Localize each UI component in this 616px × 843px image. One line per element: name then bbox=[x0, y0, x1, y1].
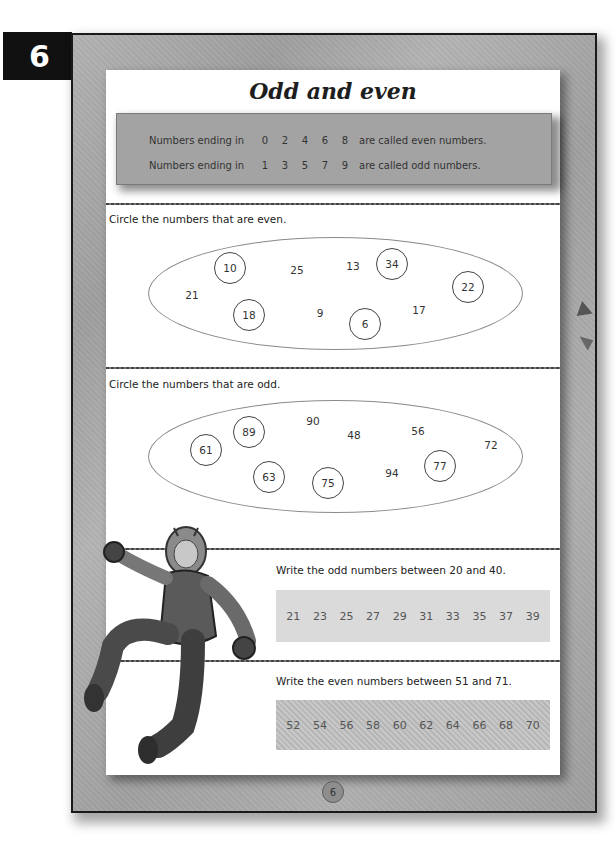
number-item[interactable]: 25 bbox=[290, 264, 303, 276]
answer-number: 39 bbox=[526, 610, 540, 623]
rule-digit: 8 bbox=[335, 135, 355, 146]
answer-number: 56 bbox=[339, 719, 353, 732]
page-number-badge: 6 bbox=[322, 781, 344, 803]
rule-digit: 4 bbox=[295, 135, 315, 146]
rule-digit: 0 bbox=[255, 135, 275, 146]
number-item[interactable]: 72 bbox=[484, 439, 497, 451]
circled-number[interactable]: 77 bbox=[424, 450, 456, 482]
number-item[interactable]: 21 bbox=[185, 289, 198, 301]
circled-number[interactable]: 63 bbox=[253, 461, 285, 493]
rule-tail: are called even numbers. bbox=[359, 135, 486, 146]
unit-number-tab: 6 bbox=[3, 32, 72, 80]
rule-lead: Numbers ending in bbox=[149, 160, 255, 171]
even-write-instruction: Write the even numbers between 51 and 71… bbox=[276, 675, 512, 687]
answer-number: 23 bbox=[313, 610, 327, 623]
unit-number: 6 bbox=[29, 39, 50, 74]
number-item[interactable]: 56 bbox=[411, 425, 424, 437]
circled-number[interactable]: 89 bbox=[233, 416, 265, 448]
rule-digit: 2 bbox=[275, 135, 295, 146]
rule-digit: 1 bbox=[255, 160, 275, 171]
circled-number[interactable]: 6 bbox=[349, 308, 381, 340]
rule-lead: Numbers ending in bbox=[149, 135, 255, 146]
rule-tail: are called odd numbers. bbox=[359, 160, 481, 171]
decorative-wing-icon bbox=[577, 301, 596, 321]
circled-number[interactable]: 75 bbox=[312, 467, 344, 499]
even-answer-box[interactable]: 52545658606264666870 bbox=[276, 700, 550, 750]
answer-number: 70 bbox=[526, 719, 540, 732]
number-item[interactable]: 48 bbox=[347, 429, 360, 441]
answer-number: 29 bbox=[393, 610, 407, 623]
rule-digit: 7 bbox=[315, 160, 335, 171]
superhero-figure-icon bbox=[84, 527, 255, 764]
answer-number: 60 bbox=[393, 719, 407, 732]
section-divider bbox=[106, 203, 560, 205]
decorative-wing-icon bbox=[580, 332, 597, 351]
page-title: Odd and even bbox=[106, 78, 560, 104]
answer-number: 62 bbox=[419, 719, 433, 732]
number-item[interactable]: 17 bbox=[412, 304, 425, 316]
even-rule-row: Numbers ending in 0 2 4 6 8 are called e… bbox=[149, 133, 486, 147]
odd-instruction: Circle the numbers that are odd. bbox=[109, 378, 280, 390]
answer-number: 68 bbox=[499, 719, 513, 732]
odd-rule-row: Numbers ending in 1 3 5 7 9 are called o… bbox=[149, 158, 481, 172]
answer-number: 31 bbox=[419, 610, 433, 623]
number-item[interactable]: 90 bbox=[306, 415, 319, 427]
answer-number: 64 bbox=[446, 719, 460, 732]
rule-info-box: Numbers ending in 0 2 4 6 8 are called e… bbox=[116, 113, 552, 185]
even-instruction: Circle the numbers that are even. bbox=[109, 213, 286, 225]
number-item[interactable]: 9 bbox=[317, 307, 324, 319]
rule-digit: 6 bbox=[315, 135, 335, 146]
circled-number[interactable]: 22 bbox=[452, 271, 484, 303]
answer-number: 33 bbox=[446, 610, 460, 623]
circled-number[interactable]: 10 bbox=[214, 252, 246, 284]
number-item[interactable]: 94 bbox=[385, 467, 398, 479]
odd-write-instruction: Write the odd numbers between 20 and 40. bbox=[276, 564, 506, 576]
answer-number: 58 bbox=[366, 719, 380, 732]
worksheet-card: Odd and even Numbers ending in 0 2 4 6 8… bbox=[106, 70, 560, 775]
rule-digit: 3 bbox=[275, 160, 295, 171]
answer-number: 25 bbox=[339, 610, 353, 623]
answer-number: 21 bbox=[286, 610, 300, 623]
answer-number: 66 bbox=[472, 719, 486, 732]
section-divider bbox=[106, 367, 560, 369]
page-number: 6 bbox=[330, 787, 336, 798]
answer-number: 54 bbox=[313, 719, 327, 732]
superhero-illustration bbox=[78, 526, 268, 766]
answer-number: 35 bbox=[472, 610, 486, 623]
circled-number[interactable]: 34 bbox=[376, 248, 408, 280]
circled-number[interactable]: 61 bbox=[190, 434, 222, 466]
answer-number: 52 bbox=[286, 719, 300, 732]
answer-number: 37 bbox=[499, 610, 513, 623]
rule-digit: 5 bbox=[295, 160, 315, 171]
rule-digit: 9 bbox=[335, 160, 355, 171]
answer-number: 27 bbox=[366, 610, 380, 623]
circled-number[interactable]: 18 bbox=[233, 299, 265, 331]
number-item[interactable]: 13 bbox=[346, 260, 359, 272]
odd-answer-box[interactable]: 21232527293133353739 bbox=[276, 590, 550, 642]
